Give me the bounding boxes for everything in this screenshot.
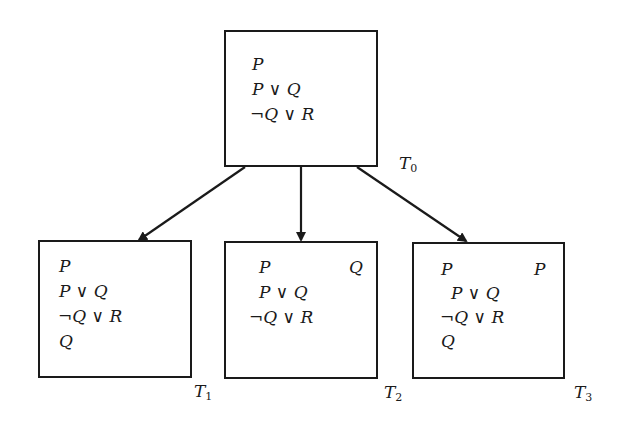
t1-label: T1: [194, 383, 212, 402]
t2-formula-3: ¬Q ∨ R: [249, 309, 313, 326]
edge-t0-t3: [357, 167, 466, 241]
t0-formula-2: P ∨ Q: [252, 81, 301, 98]
t2-formula-1: P: [259, 259, 270, 276]
t3-right-formula-1: P: [534, 261, 545, 278]
t3-formula-1: P: [441, 261, 452, 278]
node-t0-box: [224, 30, 378, 167]
t1-formula-4: Q: [59, 333, 73, 350]
t1-formula-3: ¬Q ∨ R: [58, 308, 122, 325]
t2-formula-2: P ∨ Q: [259, 284, 308, 301]
edge-t0-t1: [139, 167, 245, 240]
t2-right-formula-1: Q: [349, 259, 363, 276]
t0-label: T0: [399, 155, 417, 174]
t3-label: T3: [574, 384, 592, 403]
t3-formula-4: Q: [441, 333, 455, 350]
t0-formula-3: ¬Q ∨ R: [250, 106, 314, 123]
t0-formula-1: P: [252, 56, 263, 73]
t1-formula-2: P ∨ Q: [59, 283, 108, 300]
t1-formula-1: P: [59, 258, 70, 275]
t2-label: T2: [384, 384, 402, 403]
t3-formula-3: ¬Q ∨ R: [440, 309, 504, 326]
t3-formula-2: P ∨ Q: [451, 285, 500, 302]
